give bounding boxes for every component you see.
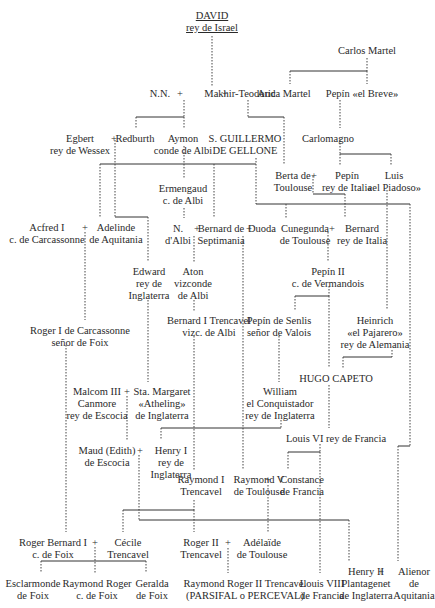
person-edward: Edwardrey deInglaterra (129, 266, 170, 302)
person-name-line: c. de Foix (19, 549, 87, 561)
person-name-line: de Toulouse (280, 235, 331, 247)
person-name-line: Septimania (197, 235, 244, 247)
person-david: DAVIDrey de Israel (186, 10, 238, 34)
person-name-line: señor de Valois (247, 327, 312, 339)
person-name-line: Louis VI rey de Francia (286, 433, 386, 445)
person-name-line: rey de Alemania (341, 339, 410, 351)
person-redburth: Redburth (115, 133, 154, 145)
person-alienor: AlienordeAquitania (393, 566, 434, 602)
marriage-plus-icon: + (378, 566, 384, 578)
person-name-line: Raymond Roger II Trencavel (184, 578, 307, 590)
person-name-line: rey de Italia (337, 235, 387, 247)
person-roger-carc: Roger I de Carcassonneseñor de Foix (30, 325, 130, 349)
person-aymon: Aymonconde de Albi (154, 133, 212, 157)
person-louis8: Louis VIIIde Francia (300, 578, 344, 602)
person-name-line: rey de (129, 278, 170, 290)
marriage-plus-icon: + (329, 223, 335, 235)
marriage-plus-icon: + (194, 223, 200, 235)
person-william: Williamel Conquistadorrey de Inglaterra (245, 386, 314, 422)
person-raymond-roger2: Raymond Roger II Trencavel(PARSIFAL o PE… (184, 578, 307, 602)
person-name-line: Trencavel (178, 486, 225, 498)
person-name-line: HUGO CAPETO (299, 373, 373, 385)
person-raymond1: Raymond ITrencavel (178, 474, 225, 498)
person-name-line: «Atheling» (134, 398, 191, 410)
person-name-line: Inglaterra (129, 290, 170, 302)
person-name-line: N. (165, 223, 191, 235)
person-name-line: c. de Vermandois (292, 278, 364, 290)
person-name-line: Louis VIII (300, 578, 344, 590)
person-name-line: Pepín II (292, 266, 364, 278)
person-name-line: Berta de (274, 170, 312, 182)
person-name-line: Ermengaud (159, 183, 207, 195)
person-name-line: Auda Martel (257, 88, 310, 100)
person-name-line: el Conquistador (245, 398, 314, 410)
person-name-line: de Foix (6, 590, 61, 602)
person-name-line: Sta. Margaret (134, 386, 191, 398)
person-pepin-breve: Pepín «el Breve» (326, 88, 398, 100)
person-name-line: de Francia (280, 486, 324, 498)
person-raymond5: Raymond Vde Toulouse (234, 474, 285, 498)
person-name-line: Edward (129, 266, 170, 278)
person-name-line: c. de Foix (62, 590, 131, 602)
person-name-line: de (393, 578, 434, 590)
person-name-line: rey de (151, 457, 192, 469)
person-carlos-martel: Carlos Martel (338, 45, 396, 57)
person-name-line: Duoda (248, 223, 276, 235)
person-heinrich: Heinrich«el Pajarero»rey de Alemania (341, 315, 410, 351)
person-roger2: Roger IITrencavel (180, 537, 222, 561)
person-adelinde: Adelindede Aquitania (89, 222, 142, 246)
person-nn-albi: N.d'Albi (165, 223, 191, 247)
person-name-line: Geralda (135, 578, 168, 590)
person-name-line: de Inglaterra (134, 410, 191, 422)
person-name-line: Raymond I (178, 474, 225, 486)
person-name-line: c. de Carcassonne (9, 234, 85, 246)
person-name-line: William (245, 386, 314, 398)
person-name-line: Cunegunda (280, 223, 331, 235)
person-pepin-italia: Pepínrey de Italia (322, 170, 372, 194)
person-name-line: Acfred I (9, 222, 85, 234)
person-aton: Atonvizcondede Albi (174, 266, 212, 302)
person-name-line: DE GELLONE (209, 145, 282, 157)
marriage-plus-icon: + (246, 223, 252, 235)
person-margaret: Sta. Margaret«Atheling»de Inglaterra (134, 386, 191, 422)
person-name-line: Adélaïde (237, 537, 288, 549)
person-name-line: Bernard de (197, 223, 244, 235)
person-pepin-senlis: Pepín de Senlisseñor de Valois (247, 315, 312, 339)
person-name-line: rey de Italia (322, 182, 372, 194)
person-name-line: d'Albi (165, 235, 191, 247)
person-name-line: Bernard (337, 223, 387, 235)
person-name-line: Adelinde (89, 222, 142, 234)
person-name-line: Trencavel (107, 549, 149, 561)
person-luis: Luis«el Piadoso» (367, 170, 421, 194)
person-name-line: Bernard I Trencavel (167, 315, 251, 327)
person-name-line: Aquitania (393, 590, 434, 602)
person-name-line: «el Pajarero» (341, 327, 410, 339)
marriage-plus-icon: + (111, 133, 117, 145)
person-name-line: Heinrich (341, 315, 410, 327)
person-louis6: Louis VI rey de Francia (286, 433, 386, 445)
person-henry2: Henry IIPlantagenetde Inglaterra (339, 566, 392, 602)
person-name-line: c. de Albi (159, 195, 207, 207)
person-name-line: señor de Foix (30, 337, 130, 349)
person-name-line: Plantagenet (339, 578, 392, 590)
person-name-line: de Inglaterra (339, 590, 392, 602)
person-name-line: Esclarmonde (6, 578, 61, 590)
marriage-plus-icon: + (137, 445, 143, 457)
person-name-line: Carlomagno (302, 133, 354, 145)
person-auda: Auda Martel (257, 88, 310, 100)
person-name-line: Maud (Edith) (79, 445, 136, 457)
person-geralda: Geraldade Foix (135, 578, 168, 602)
person-name-line: Toulouse (274, 182, 312, 194)
person-bernard-italia: Bernardrey de Italia (337, 223, 387, 247)
person-name-line: Carlos Martel (338, 45, 396, 57)
person-name-line: (PARSIFAL o PERCEVAL) (184, 590, 307, 602)
person-name-line: rey de Escocia (66, 410, 127, 422)
person-name-line: de Albi (174, 290, 212, 302)
person-pepin2: Pepín IIc. de Vermandois (292, 266, 364, 290)
marriage-plus-icon: + (177, 88, 183, 100)
person-name-line: Aymon (154, 133, 212, 145)
person-name-line: Henry I (151, 445, 192, 457)
person-berta: Berta deToulouse (274, 170, 312, 194)
person-name-line: Redburth (115, 133, 154, 145)
marriage-plus-icon: + (225, 537, 231, 549)
